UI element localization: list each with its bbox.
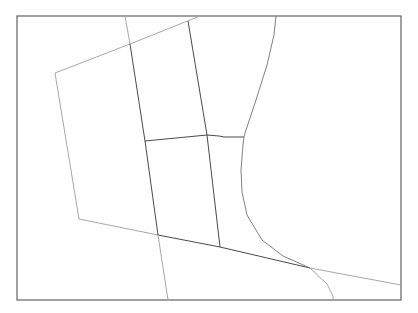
south-diagonal-boundary [158, 235, 310, 268]
boundary-lines [55, 16, 401, 300]
outer-west-boundary [55, 16, 200, 235]
middle-vertical-boundary [188, 21, 220, 247]
south-east-extension [310, 268, 401, 285]
map-canvas [0, 0, 418, 313]
west-vertical-lower [158, 235, 168, 300]
map-frame [17, 16, 401, 300]
river-south-extension [310, 268, 333, 300]
west-vertical-boundary [130, 44, 158, 235]
cross-boundary [145, 135, 244, 141]
river-boundary [241, 16, 310, 268]
west-vertical-upper [125, 16, 130, 44]
